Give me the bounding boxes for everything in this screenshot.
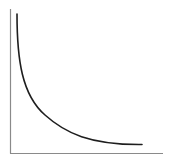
decay-curve xyxy=(17,14,142,145)
chart xyxy=(0,0,169,160)
